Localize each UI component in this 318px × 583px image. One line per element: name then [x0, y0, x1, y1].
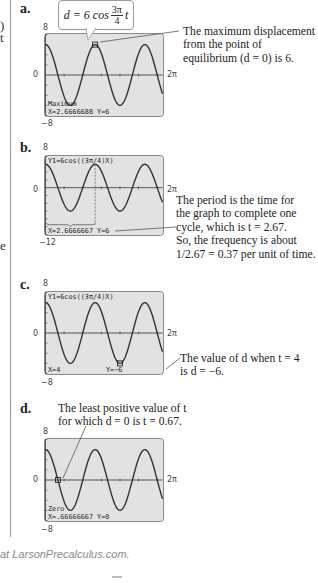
leader-lines	[0, 0, 318, 583]
callout-tail	[86, 28, 96, 40]
leader-line-a	[100, 31, 179, 42]
leader-line-b	[115, 227, 176, 231]
leader-line-d	[63, 426, 86, 478]
leader-line-c	[166, 358, 180, 369]
